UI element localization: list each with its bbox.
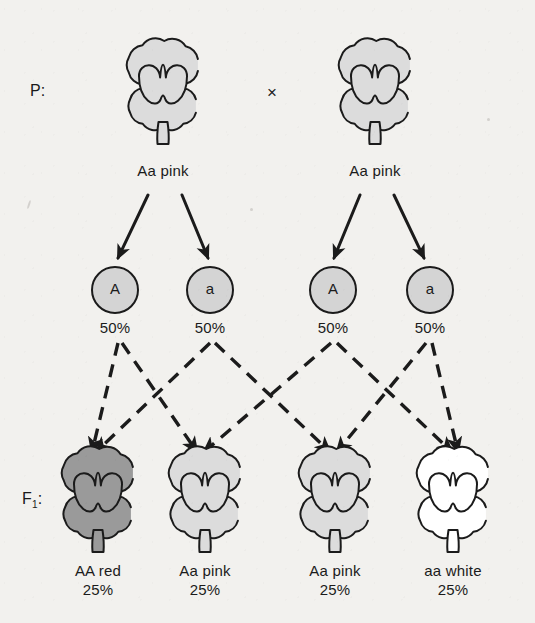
parent-left-genotype-label: Aa pink <box>137 163 188 180</box>
paper-speck <box>487 118 490 121</box>
dash-g2-o1 <box>96 343 210 452</box>
gamete-2-percent: 50% <box>195 320 226 337</box>
offspring-1-genotype-label: AA red <box>75 563 121 580</box>
genetics-cross-diagram: P: F1: × Aa pink Aa pink A a A a 50% 50%… <box>0 0 535 623</box>
arrow-p1-g1 <box>118 195 148 258</box>
offspring-2-stem <box>199 530 211 552</box>
dash-g4-o3 <box>337 343 426 452</box>
offspring-4-percent: 25% <box>438 582 469 599</box>
generation-label-f1: F1: <box>22 490 42 510</box>
offspring-3-stem <box>329 530 341 552</box>
gamete-1-allele: A <box>110 281 120 298</box>
arrow-p2-g3 <box>334 195 360 258</box>
parent-left-stem <box>157 122 169 144</box>
gamete-3-percent: 50% <box>318 320 349 337</box>
offspring-3-percent: 25% <box>320 582 351 599</box>
gamete-4-percent: 50% <box>415 320 446 337</box>
dash-g3-o4 <box>337 343 452 452</box>
parent-right-stem <box>369 122 381 144</box>
meiosis-arrows-group <box>118 195 424 258</box>
offspring-4-flower <box>417 446 488 552</box>
offspring-4-stem <box>447 530 459 552</box>
offspring-1-stem <box>92 530 104 552</box>
generation-label-p: P: <box>30 82 46 100</box>
parent-right-flower <box>339 38 410 144</box>
parent-left-flower <box>127 38 198 144</box>
offspring-2-flower <box>169 446 240 552</box>
gamete-1-percent: 50% <box>100 320 131 337</box>
dash-g1-o2 <box>122 343 197 452</box>
arrow-p2-g4 <box>394 195 424 258</box>
offspring-group <box>62 446 488 552</box>
offspring-2-genotype-label: Aa pink <box>179 563 230 580</box>
offspring-4-genotype-label: aa white <box>424 563 481 580</box>
cross-symbol: × <box>267 83 277 102</box>
parent-right-genotype-label: Aa pink <box>349 163 400 180</box>
offspring-2-percent: 25% <box>190 582 221 599</box>
gamete-4-allele: a <box>426 281 435 298</box>
fertilization-lines-group <box>92 343 458 452</box>
offspring-1-flower <box>62 446 133 552</box>
offspring-3-flower <box>299 446 370 552</box>
gametes-group <box>92 267 453 313</box>
offspring-3-genotype-label: Aa pink <box>309 563 360 580</box>
arrow-p1-g2 <box>182 195 208 258</box>
paper-speck <box>250 208 253 211</box>
gamete-2-allele: a <box>206 281 215 298</box>
gamete-3-allele: A <box>328 281 338 298</box>
offspring-1-percent: 25% <box>83 582 114 599</box>
